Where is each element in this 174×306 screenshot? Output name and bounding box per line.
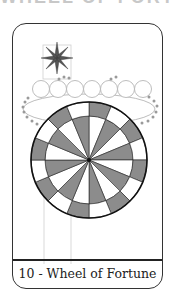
card-caption: 10 - Wheel of Fortune xyxy=(13,259,162,288)
card-illustration xyxy=(13,24,163,289)
star-icon xyxy=(41,42,73,74)
wheel-icon xyxy=(31,102,147,218)
clipped-title: WHEEL OF FORTUNE xyxy=(0,0,174,8)
tarot-card[interactable]: 10 - Wheel of Fortune xyxy=(12,23,163,289)
